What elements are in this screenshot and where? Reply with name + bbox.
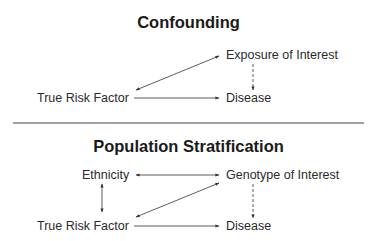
edge-riskfactor-exposure xyxy=(136,56,219,90)
diagram-arrows xyxy=(0,0,377,241)
edge-riskfactor-genotype xyxy=(136,183,219,217)
